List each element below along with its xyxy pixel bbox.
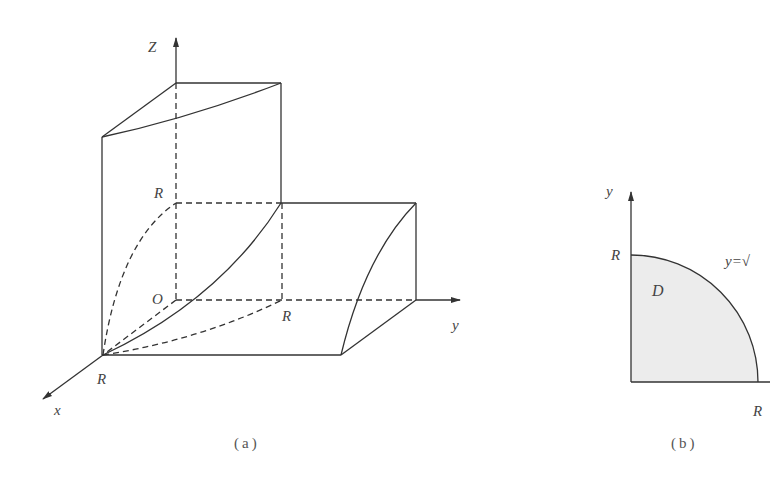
y-axis-label: y — [452, 318, 459, 333]
figure-a-drawing — [0, 0, 770, 485]
curve-equation-label: y=√ — [725, 254, 750, 269]
x-tick-R: R — [97, 372, 106, 387]
b-y-tick-R: R — [611, 248, 620, 263]
origin-label: O — [152, 292, 163, 307]
z-tick-R: R — [154, 186, 163, 201]
caption-a: (a) — [234, 436, 260, 451]
b-y-axis-label: y — [606, 184, 613, 199]
y-tick-R: R — [282, 309, 291, 324]
region-label-D: D — [652, 283, 664, 299]
x-axis — [43, 355, 103, 399]
x-axis-label: x — [54, 403, 61, 418]
b-x-tick-R: R — [753, 404, 762, 419]
z-axis-label: Z — [148, 40, 156, 55]
caption-b: (b) — [671, 436, 698, 451]
